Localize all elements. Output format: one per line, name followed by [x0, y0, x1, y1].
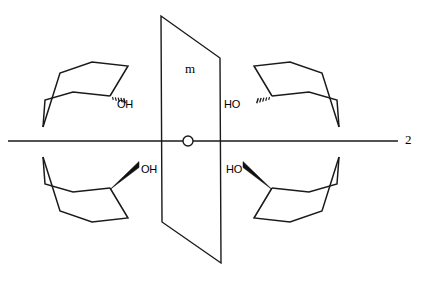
rotation-axis [8, 136, 398, 146]
substituent-label-bottom-left: OH [141, 164, 157, 175]
solid-wedge-br [243, 162, 272, 190]
ring-bond-back-bl [43, 157, 128, 222]
structure-top-right [254, 62, 339, 127]
mirror-plane-label: m [185, 62, 195, 75]
rotation-axis-label: 2 [405, 133, 411, 146]
structure-bottom-left [43, 157, 139, 222]
substituent-label-top-right: HO [224, 99, 240, 110]
structure-top-left [43, 62, 128, 127]
ring-bond-back-tl [43, 62, 128, 127]
ring-bond-back-br [254, 157, 339, 222]
ring-bond-back-tr [254, 62, 339, 127]
figure-canvas [0, 0, 425, 281]
circle-icon [183, 136, 193, 146]
solid-wedge-bl [110, 162, 139, 190]
substituent-label-bottom-right: HO [226, 164, 242, 175]
stereochemistry-figure: OH HO OH HO m 2 [0, 0, 425, 281]
hashed-wedge-tr [257, 97, 270, 103]
structure-bottom-right [243, 157, 339, 222]
substituent-label-top-left: OH [117, 99, 133, 110]
